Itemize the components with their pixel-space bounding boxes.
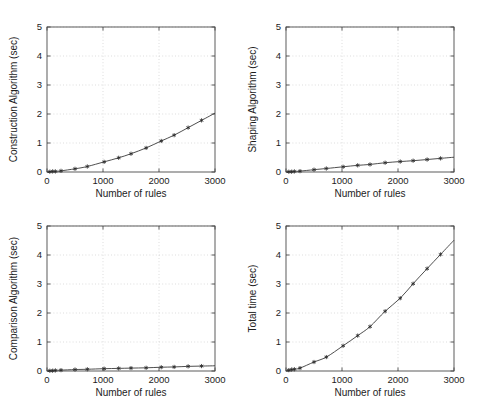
- y-tick-label: 0: [37, 166, 42, 177]
- x-tick-label: 3000: [204, 374, 225, 385]
- y-tick-label: 4: [37, 50, 42, 61]
- x-tick-label: 2000: [148, 175, 169, 186]
- x-tick-label: 0: [44, 175, 49, 186]
- y-tick-labels: 012345: [37, 21, 42, 177]
- data-point-marker: [312, 360, 316, 364]
- x-tick-labels: 0100020003000: [283, 374, 464, 385]
- plot-shaping: 0123450100020003000Number of rulesShapin…: [239, 0, 478, 199]
- axis-frame: [47, 27, 215, 172]
- y-tick-label: 2: [37, 108, 42, 119]
- y-tick-label: 5: [37, 220, 42, 231]
- y-tick-label: 0: [276, 365, 281, 376]
- y-tick-label: 0: [37, 365, 42, 376]
- data-point-marker: [200, 118, 204, 122]
- x-tick-label: 2000: [148, 374, 169, 385]
- y-axis-title: Shaping Algorithm (sec): [247, 46, 258, 152]
- data-markers: [287, 252, 442, 372]
- x-tick-labels: 0100020003000: [44, 374, 225, 385]
- y-tick-label: 4: [276, 249, 281, 260]
- x-tick-label: 3000: [443, 374, 464, 385]
- y-tick-label: 4: [276, 50, 281, 61]
- x-tick-labels: 0100020003000: [44, 175, 225, 186]
- data-curve: [47, 113, 215, 172]
- y-tick-label: 3: [276, 278, 281, 289]
- y-tick-label: 1: [276, 137, 281, 148]
- x-tick-label: 1000: [92, 175, 113, 186]
- data-markers: [48, 118, 203, 174]
- x-tick-label: 0: [283, 175, 288, 186]
- axis-frame: [286, 226, 454, 371]
- x-tick-labels: 0100020003000: [283, 175, 464, 186]
- y-tick-label: 1: [37, 137, 42, 148]
- x-tick-label: 3000: [443, 175, 464, 186]
- y-tick-label: 1: [37, 336, 42, 347]
- x-tick-label: 2000: [387, 374, 408, 385]
- grid-lines: [286, 27, 454, 172]
- data-curve: [286, 240, 454, 371]
- y-axis-title: Construction Algorithm (sec): [8, 37, 19, 163]
- data-point-marker: [144, 146, 148, 150]
- data-point-marker: [186, 126, 190, 130]
- x-tick-label: 1000: [92, 374, 113, 385]
- tick-marks: [286, 226, 454, 371]
- x-axis-title: Number of rules: [95, 387, 166, 398]
- subplot-construction-algorithm: 0123450100020003000Number of rulesConstr…: [0, 0, 239, 199]
- y-axis-title: Comparison Algorithm (sec): [8, 237, 19, 360]
- subplot-shaping-algorithm: 0123450100020003000Number of rulesShapin…: [239, 0, 478, 199]
- y-axis-title: Total time (sec): [247, 265, 258, 333]
- axis-frame: [286, 27, 454, 172]
- data-point-marker: [341, 344, 345, 348]
- x-tick-label: 3000: [204, 175, 225, 186]
- x-axis-title: Number of rules: [334, 188, 405, 199]
- x-tick-label: 0: [283, 374, 288, 385]
- tick-marks: [47, 27, 215, 172]
- data-point-marker: [159, 139, 163, 143]
- data-point-marker: [172, 133, 176, 137]
- y-tick-labels: 012345: [37, 220, 42, 376]
- tick-marks: [47, 226, 215, 371]
- x-tick-label: 0: [44, 374, 49, 385]
- figure-canvas: 0123450100020003000Number of rulesConstr…: [0, 0, 478, 398]
- plot-total: 0123450100020003000Number of rulesTotal …: [239, 199, 478, 398]
- grid-lines: [47, 27, 215, 172]
- y-tick-label: 1: [276, 336, 281, 347]
- y-tick-label: 5: [276, 21, 281, 32]
- y-tick-labels: 012345: [276, 21, 281, 177]
- y-tick-label: 2: [37, 307, 42, 318]
- y-tick-label: 2: [276, 108, 281, 119]
- subplot-comparison-algorithm: 0123450100020003000Number of rulesCompar…: [0, 199, 239, 398]
- y-tick-label: 4: [37, 249, 42, 260]
- plot-comparison: 0123450100020003000Number of rulesCompar…: [0, 199, 239, 398]
- y-tick-label: 3: [276, 79, 281, 90]
- grid-lines: [47, 226, 215, 371]
- y-tick-label: 2: [276, 307, 281, 318]
- y-tick-label: 5: [276, 220, 281, 231]
- x-tick-label: 2000: [387, 175, 408, 186]
- y-tick-label: 5: [37, 21, 42, 32]
- y-tick-label: 0: [276, 166, 281, 177]
- grid-lines: [286, 226, 454, 371]
- x-axis-title: Number of rules: [95, 188, 166, 199]
- y-tick-label: 3: [37, 278, 42, 289]
- axis-frame: [47, 226, 215, 371]
- tick-marks: [286, 27, 454, 172]
- y-tick-labels: 012345: [276, 220, 281, 376]
- x-tick-label: 1000: [331, 175, 352, 186]
- plot-construction: 0123450100020003000Number of rulesConstr…: [0, 0, 239, 199]
- y-tick-label: 3: [37, 79, 42, 90]
- x-tick-label: 1000: [331, 374, 352, 385]
- data-point-marker: [325, 355, 329, 359]
- x-axis-title: Number of rules: [334, 387, 405, 398]
- data-point-marker: [356, 334, 360, 338]
- subplot-total-time: 0123450100020003000Number of rulesTotal …: [239, 199, 478, 398]
